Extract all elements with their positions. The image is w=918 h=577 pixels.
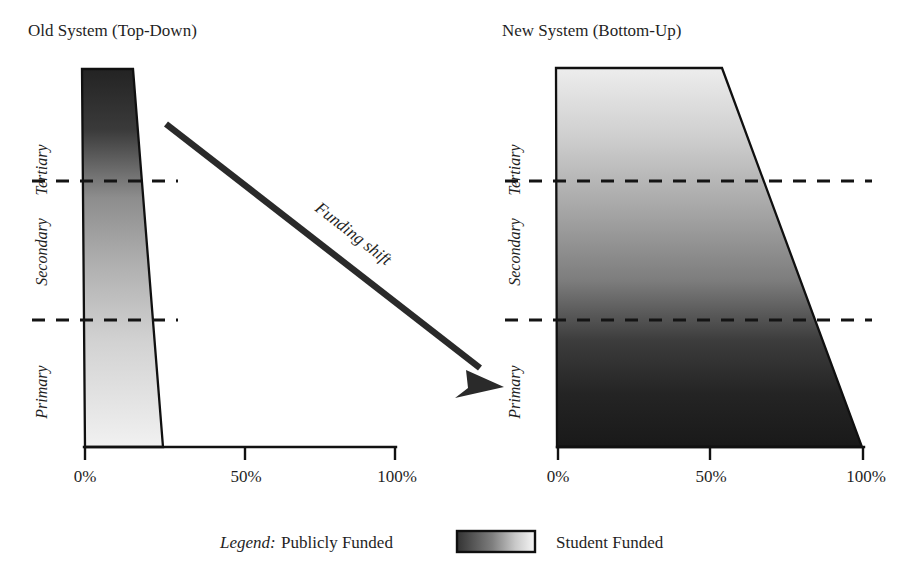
new-system-tick-label-0: 0% (547, 467, 570, 486)
figure-canvas: Old System (Top-Down) Tertiary Secondary… (0, 0, 918, 577)
old-system-tick-label-100: 100% (377, 467, 417, 486)
old-system-tick-label-50: 50% (230, 467, 261, 486)
legend-term-label: Legend: (219, 533, 276, 552)
panel-title-new-system: New System (Bottom-Up) (502, 21, 681, 40)
panel-old-system: Old System (Top-Down) Tertiary Secondary… (28, 21, 417, 486)
old-system-band-label-tertiary: Tertiary (33, 144, 51, 196)
funding-shift-figure: Old System (Top-Down) Tertiary Secondary… (0, 0, 918, 577)
new-system-band-label-tertiary: Tertiary (506, 144, 524, 196)
legend: Legend: Publicly Funded Student Funded (219, 531, 664, 552)
funding-shift-arrow-head (455, 370, 504, 398)
old-system-band-label-secondary: Secondary (33, 217, 51, 285)
new-system-tick-label-100: 100% (846, 467, 886, 486)
panel-title-old-system: Old System (Top-Down) (28, 21, 197, 40)
funding-shift-annotation: Funding shift (166, 124, 504, 398)
new-system-funding-shape (556, 68, 862, 447)
old-system-band-label-primary: Primary (33, 364, 51, 419)
old-system-funding-shape (82, 69, 163, 447)
new-system-band-label-primary: Primary (506, 364, 524, 419)
legend-entry-publicly-funded: Publicly Funded (281, 533, 393, 552)
legend-entry-student-funded: Student Funded (556, 533, 664, 552)
funding-shift-arrow-shaft (166, 124, 480, 368)
legend-gradient-swatch (457, 531, 535, 552)
new-system-band-label-secondary: Secondary (506, 217, 524, 285)
panel-new-system: New System (Bottom-Up) Tertiary Secondar… (502, 21, 886, 486)
new-system-tick-label-50: 50% (695, 467, 726, 486)
funding-shift-label: Funding shift (311, 198, 396, 270)
old-system-tick-label-0: 0% (74, 467, 97, 486)
